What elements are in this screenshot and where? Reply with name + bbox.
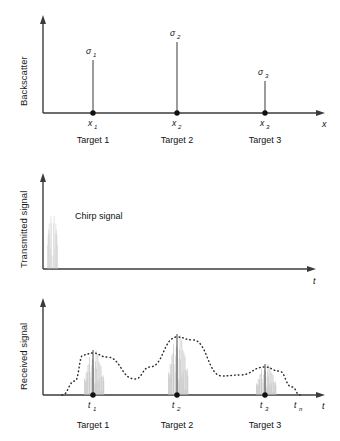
panel-received: Received signal t t 1 Target 1 t 2 Targe… — [18, 298, 325, 430]
target-label-received-1: Target 1 — [77, 420, 110, 430]
echo-marker-3: t 3 Target 3 — [249, 392, 282, 430]
chirp-waveform-echo-2 — [168, 335, 188, 395]
echo-dot-2 — [174, 392, 179, 397]
y-axis-arrowhead-transmitted — [40, 173, 46, 182]
chirp-waveform-transmitted — [47, 216, 58, 269]
echo-dot-3 — [262, 392, 267, 397]
target-label-backscatter-1: Target 1 — [77, 135, 110, 145]
target-label-backscatter-3: Target 3 — [249, 135, 282, 145]
chirp-burst-transmitted — [47, 216, 58, 269]
x-axis-arrowhead-received — [316, 392, 325, 398]
sigma-label-1: σ — [86, 46, 92, 56]
t-tick-label-3: t — [260, 400, 263, 410]
y-axis-arrowhead-backscatter — [40, 15, 46, 24]
sigma-label-3: σ — [258, 67, 264, 77]
x-axis-label-backscatter: x — [321, 119, 327, 129]
target-label-received-3: Target 3 — [249, 420, 282, 430]
tn-sub: n — [299, 406, 303, 412]
x-tick-label-2: x — [171, 118, 177, 128]
panel-backscatter: Backscatter x σ 1 x 1 Target 1 σ 2 x 2 T… — [18, 15, 327, 145]
chirp-waveform-echo-3 — [256, 364, 276, 395]
x-tick-sub-2: 2 — [177, 124, 182, 130]
echo-dot-1 — [90, 392, 95, 397]
x-axis-arrowhead-transmitted — [307, 266, 316, 272]
t-tick-sub-1: 1 — [93, 406, 96, 412]
sigma-sub-1: 1 — [93, 52, 96, 58]
t-tick-sub-3: 3 — [265, 406, 269, 412]
impulse-target-3: σ 3 x 3 Target 3 — [249, 67, 282, 145]
x-tick-label-1: x — [87, 118, 93, 128]
chirp-waveform-echo-1 — [84, 351, 104, 395]
x-tick-sub-1: 1 — [94, 124, 97, 130]
tn-label: t — [294, 400, 297, 410]
panel-transmitted: Transmitted signal t Chirp signal — [18, 173, 316, 286]
y-axis-label-transmitted: Transmitted signal — [18, 191, 29, 268]
figure-canvas: Backscatter x σ 1 x 1 Target 1 σ 2 x 2 T… — [0, 0, 340, 441]
impulse-dot-1 — [90, 110, 95, 115]
y-axis-label-received: Received signal — [18, 323, 29, 390]
echo-marker-2: t 2 Target 2 — [161, 392, 194, 430]
t-tick-label-2: t — [172, 400, 175, 410]
echo-end-tick: t n — [294, 400, 303, 412]
impulse-dot-2 — [174, 110, 179, 115]
sigma-sub-2: 2 — [176, 34, 181, 40]
impulse-target-2: σ 2 x 2 Target 2 — [161, 28, 194, 145]
signal-figure: Backscatter x σ 1 x 1 Target 1 σ 2 x 2 T… — [0, 0, 340, 441]
sigma-label-2: σ — [170, 28, 176, 38]
chirp-echo-bursts — [84, 334, 276, 395]
echo-marker-1: t 1 Target 1 — [77, 392, 110, 430]
x-axis-label-received: t — [322, 401, 325, 411]
x-axis-arrowhead-backscatter — [316, 110, 325, 116]
impulse-dot-3 — [262, 110, 267, 115]
impulse-target-1: σ 1 x 1 Target 1 — [77, 46, 110, 145]
t-tick-sub-2: 2 — [176, 406, 181, 412]
target-label-backscatter-2: Target 2 — [161, 135, 194, 145]
chirp-signal-annotation: Chirp signal — [75, 211, 123, 221]
sigma-sub-3: 3 — [265, 73, 269, 79]
x-tick-sub-3: 3 — [266, 124, 270, 130]
target-label-received-2: Target 2 — [161, 420, 194, 430]
x-axis-label-transmitted: t — [313, 276, 316, 286]
y-axis-label-backscatter: Backscatter — [18, 56, 29, 106]
x-tick-label-3: x — [259, 118, 265, 128]
t-tick-label-1: t — [88, 400, 91, 410]
y-axis-arrowhead-received — [40, 298, 46, 307]
